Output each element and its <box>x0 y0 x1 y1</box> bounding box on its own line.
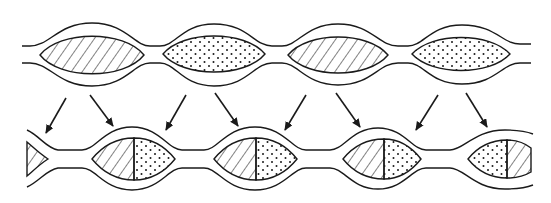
arrow-icon <box>466 93 487 127</box>
top-pod-4 <box>412 38 510 71</box>
top-pod-3 <box>288 37 388 73</box>
arrow-icon <box>90 95 113 126</box>
bottom-pod-3 <box>343 139 421 179</box>
arrow-icon <box>215 93 238 126</box>
pod-chain-diagram <box>0 0 551 203</box>
arrow-icon <box>336 93 360 127</box>
bottom-pod-2 <box>214 138 297 180</box>
arrow-icon <box>285 95 306 130</box>
arrow-icon <box>416 95 438 130</box>
top-pod-1 <box>40 36 144 74</box>
bottom-pod-4 <box>468 140 531 178</box>
arrow-icon <box>46 98 66 133</box>
top-pod-2 <box>163 36 265 72</box>
arrow-icon <box>166 95 186 130</box>
bottom-pod-partial <box>27 142 48 176</box>
arrows <box>46 93 487 133</box>
bottom-pod-1 <box>92 138 175 180</box>
